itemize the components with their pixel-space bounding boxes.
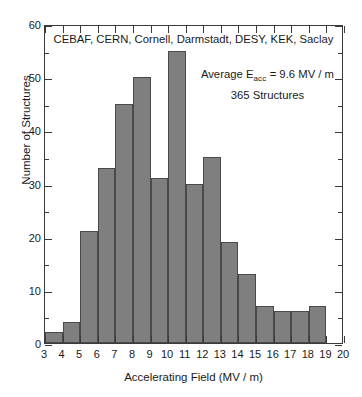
plot-area: CEBAF, CERN, Cornell, Darmstadt, DESY, K… bbox=[44, 25, 343, 344]
y-tick-major-right bbox=[335, 239, 342, 240]
y-tick-major-right bbox=[335, 186, 342, 187]
stats-annotation: Average Eacc = 9.6 MV / m 365 Structures bbox=[201, 66, 334, 104]
x-tick-major-top bbox=[151, 26, 152, 33]
x-tick-major bbox=[274, 336, 275, 343]
histogram-bar bbox=[151, 178, 169, 343]
x-tick-major-top bbox=[186, 26, 187, 33]
histogram-bar bbox=[256, 306, 274, 343]
histogram-bar bbox=[168, 51, 186, 343]
y-tick-major-right bbox=[335, 26, 342, 27]
x-tick-major bbox=[115, 336, 116, 343]
chart-title-annotation: CEBAF, CERN, Cornell, Darmstadt, DESY, K… bbox=[45, 33, 342, 45]
y-tick-major-right bbox=[335, 345, 342, 346]
histogram-bar bbox=[309, 306, 327, 343]
y-tick-minor bbox=[45, 318, 49, 319]
x-tick-major bbox=[344, 336, 345, 343]
y-tick-label: 20 bbox=[29, 233, 41, 244]
x-tick-major-top bbox=[115, 26, 116, 33]
x-tick-major-top bbox=[344, 26, 345, 33]
y-tick-minor-right bbox=[338, 318, 342, 319]
x-tick-major bbox=[80, 336, 81, 343]
y-tick-major bbox=[45, 79, 52, 80]
y-tick-major-right bbox=[335, 79, 342, 80]
x-tick-major bbox=[309, 336, 310, 343]
x-tick-major-top bbox=[63, 26, 64, 33]
histogram-bar bbox=[133, 77, 151, 343]
x-tick-major-top bbox=[98, 26, 99, 33]
histogram-bar bbox=[98, 168, 116, 343]
y-tick-label: 60 bbox=[29, 20, 41, 31]
y-tick-major bbox=[45, 239, 52, 240]
x-tick-major bbox=[256, 336, 257, 343]
x-tick-major bbox=[291, 336, 292, 343]
x-tick-major bbox=[98, 336, 99, 343]
x-tick-label: 20 bbox=[332, 349, 354, 360]
x-tick-major bbox=[326, 336, 327, 343]
y-tick-major bbox=[45, 132, 52, 133]
x-tick-major-top bbox=[80, 26, 81, 33]
x-tick-major-top bbox=[326, 26, 327, 33]
average-subscript-text: acc bbox=[253, 74, 266, 83]
y-tick-major bbox=[45, 292, 52, 293]
y-tick-minor bbox=[45, 212, 49, 213]
histogram-bar bbox=[221, 242, 239, 343]
x-tick-major bbox=[238, 336, 239, 343]
x-tick-major bbox=[203, 336, 204, 343]
x-tick-major-top bbox=[45, 26, 46, 33]
x-tick-major bbox=[133, 336, 134, 343]
y-tick-major-right bbox=[335, 132, 342, 133]
average-value-text: = 9.6 MV / m bbox=[267, 68, 335, 80]
histogram-bar bbox=[45, 332, 63, 343]
y-tick-minor-right bbox=[338, 212, 342, 213]
y-tick-label: 10 bbox=[29, 286, 41, 297]
y-tick-major bbox=[45, 186, 52, 187]
x-tick-major bbox=[186, 336, 187, 343]
y-tick-minor-right bbox=[338, 265, 342, 266]
x-tick-major-top bbox=[309, 26, 310, 33]
histogram-bar bbox=[63, 322, 81, 343]
x-tick-major bbox=[221, 336, 222, 343]
x-tick-major-top bbox=[291, 26, 292, 33]
y-tick-minor bbox=[45, 265, 49, 266]
x-tick-major bbox=[45, 336, 46, 343]
x-tick-major-top bbox=[221, 26, 222, 33]
histogram-bar bbox=[274, 311, 292, 343]
histogram-bar bbox=[291, 311, 309, 343]
x-tick-major-top bbox=[238, 26, 239, 33]
x-tick-major-top bbox=[203, 26, 204, 33]
x-tick-major-top bbox=[274, 26, 275, 33]
average-field-line: Average Eacc = 9.6 MV / m bbox=[201, 68, 334, 80]
histogram-bar bbox=[186, 184, 204, 344]
y-tick-minor bbox=[45, 159, 49, 160]
x-tick-major-top bbox=[256, 26, 257, 33]
histogram-bar bbox=[80, 231, 98, 343]
x-tick-major bbox=[151, 336, 152, 343]
y-axis-title: Number of Structures bbox=[20, 55, 32, 205]
y-tick-minor-right bbox=[338, 159, 342, 160]
histogram-bar bbox=[203, 157, 221, 343]
y-tick-major-right bbox=[335, 292, 342, 293]
x-tick-major-top bbox=[133, 26, 134, 33]
histogram-figure: CEBAF, CERN, Cornell, Darmstadt, DESY, K… bbox=[0, 0, 362, 397]
histogram-bar bbox=[238, 274, 256, 343]
y-tick-minor bbox=[45, 53, 49, 54]
y-tick-major bbox=[45, 26, 52, 27]
x-tick-major bbox=[168, 336, 169, 343]
y-tick-minor-right bbox=[338, 53, 342, 54]
structure-count-line: 365 Structures bbox=[201, 87, 334, 104]
average-prefix-text: Average E bbox=[201, 68, 254, 80]
y-tick-major bbox=[45, 345, 52, 346]
x-axis-title: Accelerating Field (MV / m) bbox=[44, 371, 343, 383]
x-tick-major-top bbox=[168, 26, 169, 33]
x-tick-major bbox=[63, 336, 64, 343]
y-tick-minor-right bbox=[338, 106, 342, 107]
y-tick-minor bbox=[45, 106, 49, 107]
histogram-bar bbox=[115, 104, 133, 343]
